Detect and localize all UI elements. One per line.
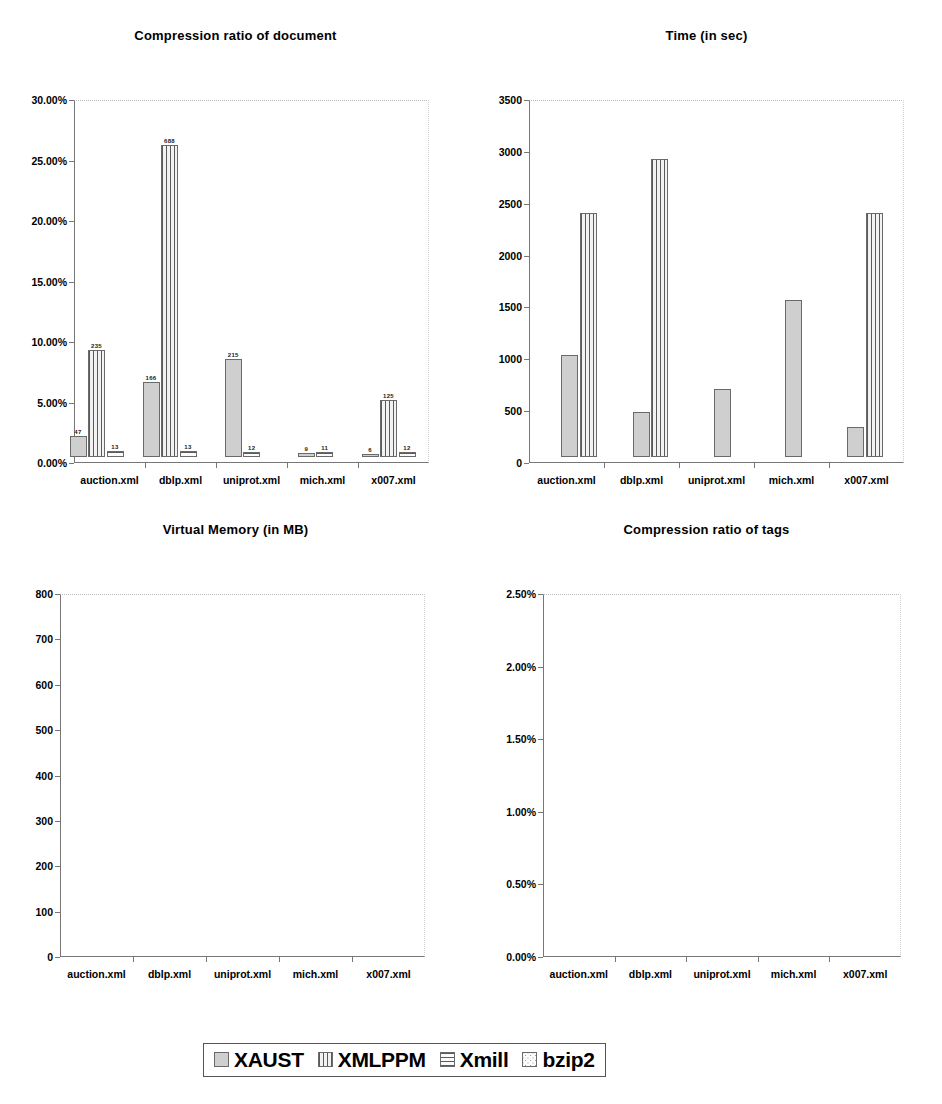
y-axis-tick-mark <box>524 411 529 412</box>
bar-xaust-auction-xml: 47 <box>70 436 87 457</box>
x-axis-tick-mark <box>145 463 146 468</box>
x-axis-tick-mark <box>287 463 288 468</box>
plot-frame <box>74 100 429 463</box>
x-axis-tick-mark <box>352 957 353 962</box>
y-axis-tick-mark <box>55 685 60 686</box>
bar-xaust-x007-xml: 6 <box>362 454 379 457</box>
y-axis-tick-label: 2000 <box>472 250 522 262</box>
x-axis-tick-mark <box>358 463 359 468</box>
y-axis-tick-label: 500 <box>472 405 522 417</box>
bar-value-label: 12 <box>403 445 410 451</box>
y-axis-tick-mark <box>69 463 74 464</box>
bar-value-label: 47 <box>74 429 81 435</box>
legend-label: XAUST <box>234 1049 304 1070</box>
x-axis-tick-mark <box>279 957 280 962</box>
y-axis-tick-label: 1.50% <box>472 733 536 745</box>
y-axis-tick-label: 0 <box>472 457 522 469</box>
y-axis-tick-mark <box>55 821 60 822</box>
bar-xmill-uniprot-xml: 12 <box>243 452 260 457</box>
x-axis-tick-label: auction.xml <box>550 968 608 980</box>
bar-xmill-x007-xml: 12 <box>399 452 416 457</box>
y-axis-tick-label: 0 <box>1 951 53 963</box>
legend-item-xmill: Xmill <box>440 1049 509 1070</box>
y-axis-tick-mark <box>55 639 60 640</box>
legend-swatch-icon <box>440 1052 455 1067</box>
bar-xaust-uniprot-xml: 215 <box>225 359 242 457</box>
chart-title: Compression ratio of document <box>0 18 471 48</box>
y-axis-tick-label: 10.00% <box>1 336 67 348</box>
y-axis-tick-mark <box>538 957 543 958</box>
y-axis-tick-label: 400 <box>1 770 53 782</box>
bar-xaust-mich-xml: 9 <box>298 453 315 457</box>
legend-label: XMLPPM <box>338 1049 426 1070</box>
x-axis-tick-label: uniprot.xml <box>214 968 271 980</box>
bar-value-label: 12 <box>248 445 255 451</box>
y-axis-tick-mark <box>538 884 543 885</box>
bar-value-label: 688 <box>164 138 175 144</box>
bar-xaust-x007-xml <box>847 427 864 457</box>
y-axis-tick-mark <box>69 403 74 404</box>
bar-value-label: 235 <box>91 343 102 349</box>
x-axis-tick-label: auction.xml <box>67 968 125 980</box>
y-axis-tick-mark <box>69 221 74 222</box>
bar-xaust-dblp-xml <box>633 412 650 457</box>
y-axis-tick-label: 800 <box>1 588 53 600</box>
legend-label: Xmill <box>460 1049 509 1070</box>
y-axis-tick-mark <box>55 912 60 913</box>
x-axis-tick-mark <box>679 463 680 468</box>
y-axis-tick-label: 2500 <box>472 198 522 210</box>
x-axis-tick-mark <box>216 463 217 468</box>
bar-value-label: 13 <box>184 444 191 450</box>
x-axis-tick-mark <box>686 957 687 962</box>
x-axis-tick-label: dblp.xml <box>159 474 202 486</box>
bar-xmlppm-auction-xml <box>580 213 597 457</box>
y-axis-tick-mark <box>538 812 543 813</box>
x-axis-tick-label: dblp.xml <box>148 968 191 980</box>
y-axis-tick-mark <box>524 307 529 308</box>
chart-title: Compression ratio of tags <box>471 512 942 542</box>
x-axis-tick-label: mich.xml <box>293 968 339 980</box>
y-axis-tick-mark <box>524 152 529 153</box>
x-axis-tick-label: x007.xml <box>844 474 888 486</box>
bar-xaust-auction-xml <box>561 355 578 457</box>
bar-xmill-auction-xml: 13 <box>107 451 124 457</box>
y-axis-tick-mark <box>55 957 60 958</box>
bar-xmill-dblp-xml: 13 <box>180 451 197 457</box>
y-axis-tick-mark <box>69 282 74 283</box>
y-axis-tick-mark <box>524 463 529 464</box>
y-axis-tick-label: 30.00% <box>1 94 67 106</box>
legend-item-bzip2: bzip2 <box>522 1049 594 1070</box>
bar-value-label: 166 <box>145 375 156 381</box>
bar-value-label: 215 <box>228 352 239 358</box>
figure-sheet: Compression ratio of document 0.00%5.00%… <box>0 0 942 1104</box>
legend-label: bzip2 <box>542 1049 594 1070</box>
x-axis-tick-mark <box>615 957 616 962</box>
chart-title: Time (in sec) <box>471 18 942 48</box>
x-axis-tick-label: x007.xml <box>366 968 410 980</box>
y-axis-tick-label: 200 <box>1 860 53 872</box>
y-axis-tick-label: 0.00% <box>472 951 536 963</box>
x-axis-tick-mark <box>133 957 134 962</box>
y-axis-tick-label: 1000 <box>472 353 522 365</box>
y-axis-tick-label: 15.00% <box>1 276 67 288</box>
x-axis-tick-label: uniprot.xml <box>688 474 745 486</box>
bar-xmlppm-dblp-xml <box>651 159 668 457</box>
y-axis-tick-label: 500 <box>1 724 53 736</box>
y-axis-tick-label: 0.00% <box>1 457 67 469</box>
plot-frame <box>60 594 425 957</box>
bar-xaust-dblp-xml: 166 <box>143 382 160 457</box>
bar-value-label: 11 <box>321 445 328 451</box>
bar-value-label: 125 <box>383 393 394 399</box>
x-axis-tick-label: mich.xml <box>771 968 817 980</box>
x-axis-tick-label: dblp.xml <box>620 474 663 486</box>
legend-swatch-icon <box>318 1052 333 1067</box>
y-axis-tick-label: 700 <box>1 633 53 645</box>
y-axis-tick-mark <box>55 776 60 777</box>
x-axis-tick-label: x007.xml <box>843 968 887 980</box>
x-axis-tick-label: x007.xml <box>371 474 415 486</box>
y-axis-tick-mark <box>69 342 74 343</box>
bar-xmlppm-x007-xml: 125 <box>380 400 397 457</box>
y-axis-tick-mark <box>538 594 543 595</box>
bar-value-label: 6 <box>368 447 372 453</box>
x-axis-tick-label: uniprot.xml <box>223 474 280 486</box>
